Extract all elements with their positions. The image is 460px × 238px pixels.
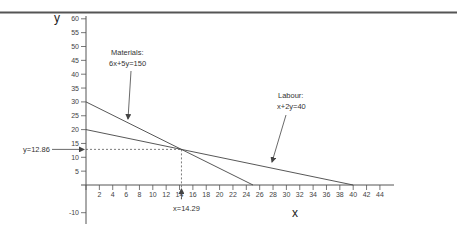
x-tick-label: 28	[269, 191, 277, 198]
x-tick-label: 6	[124, 191, 128, 198]
materials-equation: 6x+5y=150	[109, 59, 146, 68]
x-tick-label: 8	[137, 191, 141, 198]
y-tick-label: 30	[71, 98, 79, 105]
labour-equation: x+2y=40	[277, 102, 306, 111]
x-tick-label: 12	[162, 191, 170, 198]
x-value-marker-label: x=14.29	[173, 204, 200, 213]
materials-title: Materials:	[111, 48, 144, 57]
x-tick-label: 26	[256, 191, 264, 198]
y-tick-label: 60	[71, 15, 79, 22]
x-tick-label: 14	[176, 191, 184, 198]
x-axis: 2468101214161820222426283032343638404244	[81, 185, 394, 198]
series-line-labour	[86, 130, 353, 185]
y-tick-label: 35	[71, 85, 79, 92]
x-tick-label: 10	[149, 191, 157, 198]
y-tick-label: 55	[71, 29, 79, 36]
series-lines	[86, 102, 353, 185]
y-tick-label: 10	[71, 154, 79, 161]
y-tick-label: 5	[75, 168, 79, 175]
y-tick-label: 50	[71, 43, 79, 50]
x-axis-title: x	[292, 206, 298, 220]
x-tick-label: 36	[323, 191, 331, 198]
x-tick-label: 22	[229, 191, 237, 198]
x-tick-label: 30	[283, 191, 291, 198]
x-tick-label: 44	[376, 191, 384, 198]
y-tick-label: 15	[71, 140, 79, 147]
x-tick-label: 32	[296, 191, 304, 198]
series-line-materials	[86, 102, 253, 185]
y-axis-title: y	[54, 11, 60, 25]
y-tick-label: 40	[71, 71, 79, 78]
y-axis: -1051015202530354045505560	[69, 15, 86, 224]
x-tick-label: 38	[336, 191, 344, 198]
x-tick-label: 42	[363, 191, 371, 198]
x-tick-label: 24	[242, 191, 250, 198]
x-tick-label: 4	[111, 191, 115, 198]
materials-arrow-icon	[128, 71, 131, 119]
labour-arrow-icon	[272, 115, 286, 162]
y-tick-label: 45	[71, 57, 79, 64]
y-tick-label: -10	[69, 209, 79, 216]
y-tick-label: 20	[71, 126, 79, 133]
x-tick-label: 2	[97, 191, 101, 198]
y-tick-label: 25	[71, 112, 79, 119]
x-tick-label: 18	[202, 191, 210, 198]
x-tick-label: 40	[349, 191, 357, 198]
linear-programming-chart: -1051015202530354045505560 2468101214161…	[0, 0, 460, 238]
labour-title: Labour:	[278, 91, 303, 100]
x-tick-label: 34	[309, 191, 317, 198]
x-tick-label: 20	[216, 191, 224, 198]
y-value-marker-label: y=12.86	[23, 145, 50, 154]
x-tick-label: 16	[189, 191, 197, 198]
